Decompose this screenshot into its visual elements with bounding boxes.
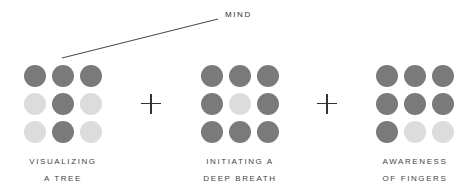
- label-line-2: OF FINGERS: [355, 170, 475, 187]
- dot-filled: [432, 65, 454, 87]
- plus-icon: [141, 94, 161, 114]
- dot-faded: [24, 121, 46, 143]
- dot-faded: [80, 121, 102, 143]
- dot-filled: [201, 121, 223, 143]
- dot-faded: [80, 93, 102, 115]
- dot-filled: [257, 65, 279, 87]
- dot-filled: [376, 93, 398, 115]
- dot-filled: [376, 121, 398, 143]
- dot-faded: [24, 93, 46, 115]
- label-line-1: AWARENESS: [355, 153, 475, 170]
- dot-filled: [52, 65, 74, 87]
- label-line-2: DEEP BREATH: [180, 170, 300, 187]
- dot-filled: [404, 93, 426, 115]
- plus-icon: [317, 94, 337, 114]
- label-line-2: A TREE: [3, 170, 123, 187]
- dot-filled: [229, 121, 251, 143]
- dot-filled: [376, 65, 398, 87]
- dot-filled: [201, 65, 223, 87]
- label-awareness-of-fingers: AWARENESS OF FINGERS: [355, 153, 475, 187]
- dot-filled: [229, 65, 251, 87]
- dot-filled: [432, 93, 454, 115]
- dot-faded: [432, 121, 454, 143]
- dot-filled: [52, 93, 74, 115]
- diagram: MIND VISUALIZING A TREE INITIATING A DEE…: [0, 0, 476, 190]
- mind-annotation: MIND: [225, 10, 252, 19]
- label-line-1: VISUALIZING: [3, 153, 123, 170]
- dot-filled: [257, 121, 279, 143]
- dot-grid-awareness-of-fingers: [376, 65, 460, 149]
- dot-faded: [229, 93, 251, 115]
- dot-filled: [404, 65, 426, 87]
- dot-grid-initiating-a-deep-breath: [201, 65, 285, 149]
- dot-faded: [404, 121, 426, 143]
- label-initiating-a-deep-breath: INITIATING A DEEP BREATH: [180, 153, 300, 187]
- label-line-1: INITIATING A: [180, 153, 300, 170]
- dot-filled: [201, 93, 223, 115]
- dot-filled: [80, 65, 102, 87]
- dot-filled: [257, 93, 279, 115]
- dot-grid-visualizing-a-tree: [24, 65, 108, 149]
- label-visualizing-a-tree: VISUALIZING A TREE: [3, 153, 123, 187]
- dot-filled: [52, 121, 74, 143]
- dot-filled: [24, 65, 46, 87]
